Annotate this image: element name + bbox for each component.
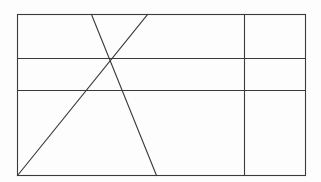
diagonal-top-to-bottom [92, 15, 157, 176]
diagram-canvas [0, 0, 321, 182]
line-diagram [0, 0, 321, 182]
diagonal-bottomleft-to-top [18, 15, 148, 176]
outer-rectangle [18, 15, 306, 176]
